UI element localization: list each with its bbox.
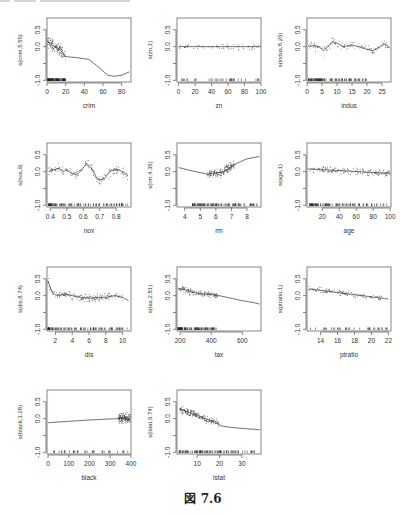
panel-lstat: 102030-1.00.00.5lstats(lstat,6.74) [130, 372, 260, 497]
x-tick-label: 10 [194, 460, 202, 467]
x-tick-label: 60 [224, 88, 232, 95]
x-tick-label: 40 [81, 88, 89, 95]
x-axis-label: zn [216, 102, 223, 109]
y-axis-label: s(ptratio,1) [277, 285, 283, 314]
x-tick-label: 0.6 [79, 213, 88, 220]
y-tick-label: 0.0 [164, 414, 171, 423]
y-tick-label: 0.5 [294, 150, 301, 159]
x-tick-label: 8 [245, 213, 249, 220]
x-tick-label: 22 [385, 337, 393, 344]
x-tick-label: 20 [216, 460, 224, 467]
x-tick-label: 7 [230, 213, 234, 220]
x-tick-label: 30 [238, 460, 246, 467]
y-tick-label: -1.0 [294, 74, 301, 86]
panel-ptratio: 1416182022-1.00.00.5ptratios(ptratio,1) [260, 249, 390, 374]
y-tick-label: 0.0 [34, 291, 41, 300]
y-axis-label: s(crim,5.55) [17, 34, 23, 66]
y-tick-label: 0.5 [34, 25, 41, 34]
y-tick-label: -1.0 [34, 446, 41, 458]
x-axis-label: rm [215, 227, 223, 234]
x-tick-label: 0 [177, 88, 181, 95]
y-tick-label: -1.0 [34, 199, 41, 211]
x-tick-label: 0 [45, 88, 49, 95]
panel-crim: 020406080-1.00.00.5crims(crim,5.55) [0, 0, 130, 125]
x-tick-label: 0.7 [95, 213, 104, 220]
y-tick-label: 0.5 [34, 397, 41, 406]
x-tick-label: 0.4 [46, 213, 55, 220]
x-tick-label: 0 [46, 460, 50, 467]
x-axis-label: crim [83, 102, 95, 109]
plot-frame [307, 18, 391, 82]
plot-frame [47, 267, 131, 331]
y-tick-label: 0.5 [164, 274, 171, 283]
gam-partial-effects-grid: 020406080-1.00.00.5crims(crim,5.55)02040… [0, 0, 406, 514]
x-tick-label: 80 [370, 213, 378, 220]
x-tick-label: 4 [70, 337, 74, 344]
y-axis-label: s(black,1.28) [17, 405, 23, 439]
y-axis-label: s(lstat,6.74) [147, 406, 153, 437]
x-axis-label: lstat [213, 474, 225, 481]
plot-frame [307, 143, 391, 207]
x-tick-label: 10 [333, 88, 341, 95]
x-axis-label: indus [341, 102, 357, 109]
y-tick-label: 0.0 [34, 167, 41, 176]
y-axis-label: s(tax,2.81) [147, 285, 153, 313]
y-tick-label: 0.0 [34, 414, 41, 423]
x-tick-label: 40 [336, 213, 344, 220]
x-tick-label: 200 [175, 337, 186, 344]
y-tick-label: -1.0 [34, 323, 41, 335]
panel-nox: 0.40.50.60.70.8-1.00.00.5noxs(nox,9) [0, 125, 130, 250]
x-tick-label: 60 [353, 213, 361, 220]
x-axis-label: age [344, 227, 355, 235]
panel-rm: 45678-1.00.00.5rms(rm,4.35) [130, 125, 260, 250]
y-tick-label: 0.0 [294, 42, 301, 51]
panel-tax: 200400600-1.00.00.5taxs(tax,2.81) [130, 249, 260, 374]
x-tick-label: 5 [320, 88, 324, 95]
y-tick-label: 0.5 [294, 274, 301, 283]
x-axis-label: black [81, 474, 97, 481]
x-tick-label: 15 [348, 88, 356, 95]
plot-frame [177, 267, 261, 331]
x-tick-label: 60 [99, 88, 107, 95]
panel-indus: 0510152025-1.00.00.5induss(indus,8.26) [260, 0, 390, 125]
y-axis-label: s(rm,4.35) [147, 161, 153, 188]
x-tick-label: 400 [206, 337, 217, 344]
plot-frame [177, 390, 261, 454]
x-tick-label: 16 [334, 337, 342, 344]
y-tick-label: -1.0 [164, 199, 171, 211]
y-tick-label: 0.0 [164, 167, 171, 176]
y-tick-label: 0.0 [294, 291, 301, 300]
x-tick-label: 25 [378, 88, 386, 95]
y-tick-label: -1.0 [164, 74, 171, 86]
y-tick-label: -1.0 [164, 323, 171, 335]
x-axis-label: tax [215, 351, 224, 358]
plot-frame [307, 267, 391, 331]
x-tick-label: 40 [208, 88, 216, 95]
x-tick-label: 300 [105, 460, 116, 467]
x-axis-label: nox [84, 227, 95, 234]
x-tick-label: 20 [319, 213, 327, 220]
x-tick-label: 20 [62, 88, 70, 95]
y-tick-label: 0.0 [164, 42, 171, 51]
panel-black: 0100200300400-1.00.00.5blacks(black,1.28… [0, 372, 130, 497]
y-tick-label: 0.0 [294, 167, 301, 176]
x-tick-label: 20 [192, 88, 200, 95]
y-tick-label: 0.5 [34, 150, 41, 159]
y-tick-label: 0.5 [164, 150, 171, 159]
y-axis-label: s(nox,9) [17, 164, 23, 186]
y-tick-label: -1.0 [294, 199, 301, 211]
x-tick-label: 600 [237, 337, 248, 344]
x-tick-label: 14 [317, 337, 325, 344]
x-tick-label: 4 [183, 213, 187, 220]
y-tick-label: 0.0 [164, 291, 171, 300]
x-tick-label: 20 [368, 337, 376, 344]
x-tick-label: 0.5 [62, 213, 71, 220]
plot-frame [177, 18, 261, 82]
x-tick-label: 8 [104, 337, 108, 344]
plot-frame [47, 143, 131, 207]
y-tick-label: 0.0 [34, 42, 41, 51]
x-tick-label: 2 [54, 337, 58, 344]
y-tick-label: -1.0 [164, 446, 171, 458]
x-tick-label: 0.8 [112, 213, 121, 220]
y-axis-label: s(age,1) [277, 164, 283, 186]
